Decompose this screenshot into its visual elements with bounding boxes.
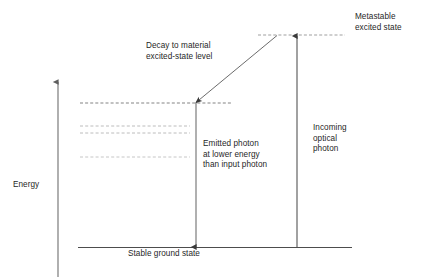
decay-transition-label: Decay to material excited-state level [146,41,250,62]
energy-axis-label: Energy [13,180,61,191]
ground-state-label: Stable ground state [128,249,238,260]
emitted-photon-label: Emitted photon at lower energy than inpu… [203,139,295,171]
incoming-photon-label: Incoming optical photon [313,123,383,155]
energy-level-diagram: Metastable excited state Decay to materi… [0,0,430,278]
metastable-state-label: Metastable excited state [355,12,429,33]
